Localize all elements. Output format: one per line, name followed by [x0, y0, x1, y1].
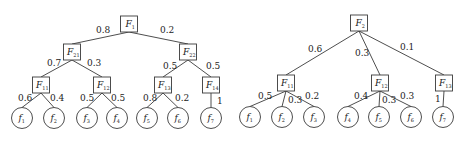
node-f3: f3 — [77, 108, 98, 129]
node-F12: F12 — [94, 77, 111, 93]
node-f7: f7 — [201, 108, 222, 129]
node-f5: f5 — [137, 108, 158, 129]
node-f5: f5 — [369, 107, 390, 128]
edge-weight-label: 0.2 — [305, 91, 319, 101]
edge-weight-label: 0.5 — [111, 93, 126, 103]
node-F12: F12 — [372, 75, 389, 91]
node-f6: f6 — [401, 107, 422, 128]
node-F22: F22 — [180, 44, 197, 60]
node-f4: f4 — [107, 108, 128, 129]
node-F2: F2 — [351, 15, 368, 31]
node-f4: f4 — [338, 107, 359, 128]
edge-F13-f7 — [443, 91, 444, 107]
node-f1: f1 — [12, 108, 33, 129]
left-tree: 0.80.20.70.30.50.50.60.40.50.50.80.21F1F… — [12, 16, 223, 129]
node-f7: f7 — [433, 107, 454, 128]
right-tree: 0.60.30.10.50.30.20.40.30.31F2F11F12F13f… — [240, 15, 454, 128]
edge-weight-label: 1 — [217, 96, 223, 106]
edge-weight-label: 0.4 — [50, 93, 65, 103]
node-f2: f2 — [44, 108, 65, 129]
edge-weight-label: 0.5 — [258, 91, 273, 101]
node-f3: f3 — [304, 107, 325, 128]
node-F13: F13 — [436, 75, 453, 91]
edge-weight-label: 0.3 — [87, 58, 102, 68]
edge-weight-label: 0.6 — [308, 44, 323, 54]
edge-weight-label: 0.3 — [400, 91, 415, 101]
node-F1: F1 — [121, 16, 138, 32]
node-F11: F11 — [33, 77, 50, 93]
node-F14: F14 — [203, 77, 220, 93]
node-F21: F21 — [64, 44, 81, 60]
edge-F11-f2 — [282, 91, 286, 107]
node-f6: f6 — [168, 108, 189, 129]
edge-weight-label: 0.7 — [47, 58, 62, 68]
node-f2: f2 — [272, 107, 293, 128]
node-f1: f1 — [240, 107, 261, 128]
edge-weight-label: 0.1 — [400, 42, 414, 52]
weighted-tree-diagrams: 0.80.20.70.30.50.50.60.40.50.50.80.21F1F… — [0, 0, 468, 142]
edge-weight-label: 0.2 — [160, 25, 174, 35]
edge-F2-F13 — [359, 31, 444, 75]
node-F11: F11 — [278, 75, 295, 91]
edge-weight-label: 0.5 — [80, 93, 95, 103]
edge-weight-label: 0.3 — [355, 48, 370, 58]
edge-weight-label: 0.4 — [354, 91, 369, 101]
edge-weight-label: 0.6 — [18, 93, 33, 103]
edge-weight-label: 0.2 — [175, 93, 189, 103]
edge-weight-label: 0.8 — [96, 25, 111, 35]
edge-F1-F22 — [129, 32, 188, 44]
edge-weight-label: 0.8 — [143, 93, 158, 103]
node-F13: F13 — [155, 77, 172, 93]
edge-weight-label: 0.3 — [382, 95, 397, 105]
edge-weight-label: 0.5 — [206, 61, 221, 71]
edge-F2-F11 — [286, 31, 359, 75]
edge-weight-label: 1 — [435, 94, 441, 104]
edge-weight-label: 0.5 — [163, 61, 178, 71]
edge-F12-f5 — [379, 91, 380, 107]
